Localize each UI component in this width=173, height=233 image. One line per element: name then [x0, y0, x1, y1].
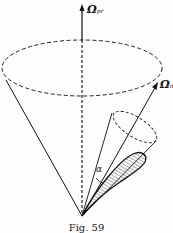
cone-diagram	[0, 0, 173, 233]
small-cone-base	[108, 105, 161, 148]
tilted-axis-arrow-icon	[152, 82, 158, 90]
label-omega-n: Ωn	[160, 79, 173, 90]
vertical-axis-arrow-icon	[80, 4, 85, 11]
label-alpha: α	[96, 165, 102, 174]
figure: Ωpr Ωn α Fig. 59	[0, 0, 173, 233]
cone-left-edge	[6, 80, 82, 216]
label-omega-pr: Ωpr	[87, 4, 104, 15]
figure-caption: Fig. 59	[0, 222, 173, 233]
